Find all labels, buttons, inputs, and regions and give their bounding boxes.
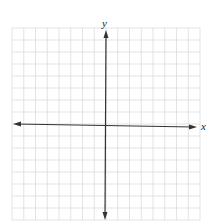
coordinate-plane xyxy=(0,0,215,223)
y-axis-down-arrow-icon xyxy=(103,212,108,220)
axes xyxy=(13,30,197,220)
y-axis-up-arrow-icon xyxy=(104,30,109,38)
x-axis-label: x xyxy=(201,121,206,132)
y-axis-label: y xyxy=(102,18,107,29)
x-axis-left-arrow-icon xyxy=(13,122,21,127)
x-axis xyxy=(16,124,193,127)
x-axis-right-arrow-icon xyxy=(189,125,197,130)
